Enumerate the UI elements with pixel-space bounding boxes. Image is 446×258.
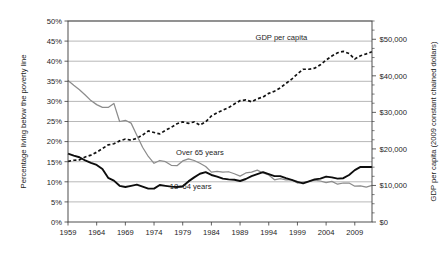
x-tick-label: 1999 [289,228,306,237]
y-tick-label: 35% [47,77,62,86]
y-tick-label: 10% [47,178,62,187]
y2-tick-label: $50,000 [380,35,407,44]
x-tick-label: 1984 [203,228,220,237]
x-tick-label: 1989 [232,228,249,237]
y2-tick-label: $10,000 [380,181,407,190]
y-tick-label: 20% [47,137,62,146]
y-tick-label: 30% [47,97,62,106]
x-axis-tick-labels: 1959196419691974197919841989199419992004… [60,228,364,237]
y2-tick-label: $20,000 [380,145,407,154]
chart-container: 0%5%10%15%20%25%30%35%40%45%50% $0$10,00… [0,0,446,258]
x-tick-label: 1994 [260,228,277,237]
x-tick-label: 1969 [117,228,134,237]
y2-tick-label: $40,000 [380,72,407,81]
y-tick-label: 15% [47,158,62,167]
series-annotation-label: 18–64 years [170,182,212,191]
y-tick-label: 40% [47,57,62,66]
y2-tick-label: $30,000 [380,108,407,117]
series-annotation-label: Over 65 years [176,148,224,157]
y-tick-label: 5% [51,198,62,207]
x-tick-label: 2004 [318,228,335,237]
y-tick-label: 45% [47,37,62,46]
poverty-gdp-line-chart: 0%5%10%15%20%25%30%35%40%45%50% $0$10,00… [0,0,446,258]
y2-tick-label: $0 [380,218,388,227]
series-annotation-label: GDP per capita [255,33,308,42]
x-tick-label: 2009 [346,228,363,237]
x-tick-label: 1974 [146,228,163,237]
y-tick-label: 50% [47,17,62,26]
x-tick-label: 1964 [88,228,105,237]
y-tick-label: 25% [47,117,62,126]
x-tick-label: 1959 [60,228,77,237]
y2-axis-title: GDP per capita (2009 constant chained do… [429,41,438,201]
x-tick-label: 1979 [174,228,191,237]
y-tick-label: 0% [51,218,62,227]
y-axis-title: Percentage living below the poverty line [19,55,28,189]
